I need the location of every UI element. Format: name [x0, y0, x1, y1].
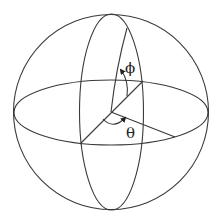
- theta-label: θ: [126, 124, 135, 142]
- spherical-coordinates-diagram: ϕ θ: [0, 0, 221, 222]
- phi-label: ϕ: [125, 59, 135, 77]
- theta-angle-arc: [103, 118, 125, 124]
